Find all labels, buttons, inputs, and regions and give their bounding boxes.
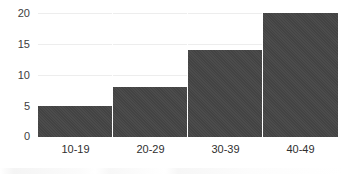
y-tick-label-20: 20 — [4, 8, 30, 19]
bar-20-29[interactable] — [113, 87, 187, 137]
x-tick-label-10-19: 10-19 — [38, 142, 113, 160]
x-tick-label-40-49: 40-49 — [263, 142, 338, 160]
x-tick-label-30-39: 30-39 — [188, 142, 263, 160]
y-tick-label-10: 10 — [4, 70, 30, 81]
x-axis: 10-19 20-29 30-39 40-49 — [38, 142, 338, 160]
bar-30-39[interactable] — [188, 50, 262, 137]
bars-layer — [38, 13, 338, 137]
bar-slot-10-19 — [38, 13, 113, 137]
y-tick-label-5: 5 — [4, 101, 30, 112]
plot-area — [38, 13, 338, 137]
bar-slot-20-29 — [113, 13, 188, 137]
bar-chart-figure: 20 15 10 5 0 10-19 20-29 — [0, 0, 343, 178]
bar-10-19[interactable] — [38, 106, 112, 137]
x-tick-label-20-29: 20-29 — [113, 142, 188, 160]
bar-slot-40-49 — [263, 13, 338, 137]
y-tick-label-15: 15 — [4, 39, 30, 50]
y-tick-label-0: 0 — [4, 131, 30, 142]
image-bottom-artifact — [0, 168, 343, 174]
bar-slot-30-39 — [188, 13, 263, 137]
bar-40-49[interactable] — [263, 13, 338, 137]
